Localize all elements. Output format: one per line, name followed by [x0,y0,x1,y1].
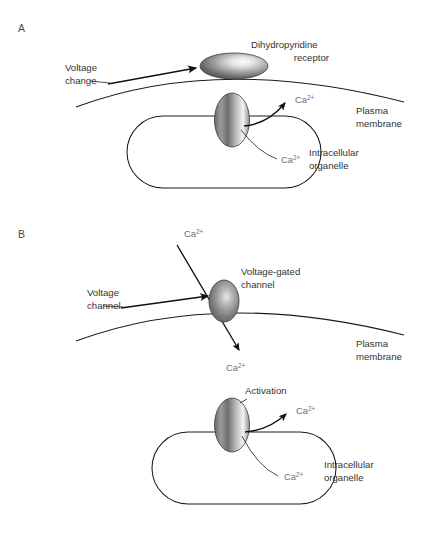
panel-b-calcium-efflux-label: Ca2+ [296,405,315,417]
calcium-signalling-diagram: A Voltage change Dihydropyridine recepto… [0,0,434,533]
panel-a-calcium-efflux-charge: 2+ [307,94,315,101]
panel-b-calcium-influx-symbol: Ca [226,363,239,373]
panel-b-calcium-store-symbol: Ca [284,472,297,482]
panel-a-dihydropyridine-receptor [200,53,268,79]
panel-b-calcium-extracellular-symbol: Ca [184,229,197,239]
panel-a-calcium-efflux-symbol: Ca [295,95,308,105]
panel-b-voltage-channel-arrow [121,296,208,308]
panel-b-voltage-gated-channel [209,280,239,322]
panel-a-plasma-membrane-label-line1: Plasma [356,105,389,116]
panel-b-activation-leader [240,399,247,403]
panel-b-label: B [18,228,25,240]
panel-a-label: A [18,22,25,34]
panel-b-voltage-label-line2: channel [87,300,121,311]
panel-b: B Voltage channel Voltage-gated channel … [18,228,404,505]
panel-b-channel-label-line1: Voltage-gated [241,266,300,277]
panel-a-voltage-label-line2: change [65,75,96,86]
panel-a-calcium-store-symbol: Ca [281,155,294,165]
panel-b-calcium-influx-charge: 2+ [238,362,246,369]
panel-a-receptor-label-line1: Dihydropyridine [251,39,318,50]
panel-a-calcium-store-charge: 2+ [293,154,301,161]
panel-a-voltage-label-line1: Voltage [65,62,97,73]
panel-b-activation-protein [215,398,250,452]
panel-a-channel-protein [215,93,250,147]
panel-b-organelle-label-line1: Intracellular [324,459,374,470]
panel-b-calcium-extracellular-charge: 2+ [196,228,204,235]
panel-b-calcium-efflux-charge: 2+ [308,405,316,412]
panel-b-activation-label: Activation [245,385,287,396]
figure-root: A Voltage change Dihydropyridine recepto… [0,0,434,533]
panel-b-calcium-influx-label: Ca2+ [226,362,245,374]
panel-a-organelle-label-line2: organelle [309,160,348,171]
panel-b-calcium-extracellular-label: Ca2+ [184,228,203,240]
panel-b-plasma-membrane-label-line1: Plasma [356,338,389,349]
panel-b-plasma-membrane-label-line2: membrane [356,351,402,362]
panel-b-channel-label-line2: channel [241,279,275,290]
panel-a-plasma-membrane-label-line2: membrane [356,118,402,129]
panel-a-organelle-label-line1: Intracellular [309,147,359,158]
panel-a-calcium-efflux-label: Ca2+ [295,94,314,106]
panel-b-calcium-efflux-arrow [245,414,286,432]
panel-b-organelle-label-line2: organelle [324,472,363,483]
panel-b-calcium-store-charge: 2+ [296,471,304,478]
panel-b-calcium-efflux-symbol: Ca [296,406,309,416]
panel-a: A Voltage change Dihydropyridine recepto… [18,22,404,188]
panel-a-receptor-label-line2: receptor [294,52,330,63]
panel-b-plasma-membrane-curve [76,313,404,341]
panel-b-voltage-label-line1: Voltage [87,287,119,298]
